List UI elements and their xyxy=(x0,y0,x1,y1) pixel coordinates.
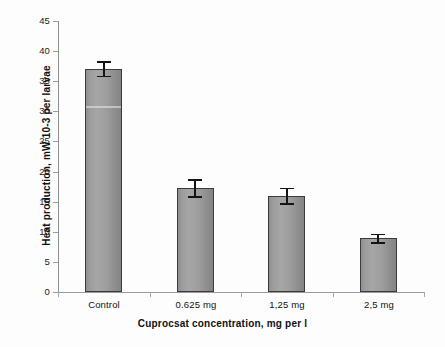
error-bar-cap-lower xyxy=(371,242,385,244)
x-axis-tick-label: 1,25 mg xyxy=(241,299,333,310)
y-axis-tick xyxy=(53,202,58,203)
x-axis-tick-label: 2,5 mg xyxy=(333,299,425,310)
error-bar-stem xyxy=(286,188,288,204)
y-axis-tick-label-text: 45 xyxy=(4,15,50,26)
y-axis-title: Heat production, mW 10-3 per larvae xyxy=(41,26,52,286)
y-axis-tick-label: 0 xyxy=(0,286,50,298)
x-axis-title: Cuprocsat concentration, mg per l xyxy=(0,318,445,329)
y-axis-line xyxy=(58,21,59,293)
y-axis-tick xyxy=(53,141,58,142)
error-bar-stem xyxy=(103,61,105,75)
x-axis-tick xyxy=(241,292,242,297)
y-axis-tick xyxy=(53,21,58,22)
bar-highlight-streak xyxy=(86,106,121,108)
y-axis-title-holder: Heat production, mW 10-3 per larvae xyxy=(14,0,15,1)
y-axis-tick xyxy=(53,172,58,173)
error-bar-cap-lower xyxy=(188,196,202,198)
x-axis-tick xyxy=(424,292,425,297)
error-bar-cap-upper xyxy=(371,234,385,236)
y-axis-tick-label-text: 0 xyxy=(4,286,50,297)
error-bar-cap-upper xyxy=(97,61,111,63)
x-axis-tick xyxy=(333,292,334,297)
y-axis-tick xyxy=(53,111,58,112)
error-bar-stem xyxy=(194,179,196,196)
y-axis-tick xyxy=(53,51,58,52)
y-axis-tick xyxy=(53,232,58,233)
x-axis-tick-label: Control xyxy=(58,299,150,310)
error-bar-cap-upper xyxy=(188,179,202,181)
bar xyxy=(177,188,214,292)
x-axis-tick xyxy=(150,292,151,297)
bar xyxy=(268,196,305,292)
bar xyxy=(360,238,397,292)
y-axis-tick xyxy=(53,262,58,263)
x-axis-tick-label: 0.625 mg xyxy=(150,299,242,310)
error-bar-cap-lower xyxy=(97,76,111,78)
error-bar-cap-lower xyxy=(280,203,294,205)
y-axis-tick xyxy=(53,81,58,82)
bar-chart-figure: 051015202530354045 Control0.625 mg1,25 m… xyxy=(0,0,445,347)
bar xyxy=(85,69,122,292)
error-bar-cap-upper xyxy=(280,188,294,190)
x-axis-tick xyxy=(58,292,59,297)
